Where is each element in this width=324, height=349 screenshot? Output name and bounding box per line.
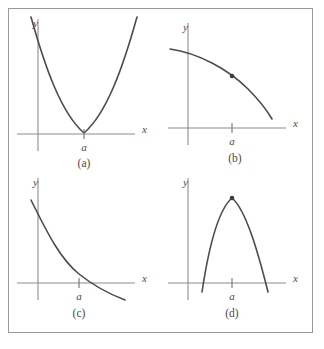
caption-c: (c) [73,307,86,320]
panel-b-plot: x y a (b) [160,9,312,171]
y-axis-label-d: y [182,176,188,188]
panel-a-plot: x y a (a) [9,9,161,171]
marked-point-d [230,196,235,201]
tick-label-c: a [76,290,82,302]
curve-c [31,200,125,300]
tick-label-a: a [81,141,87,153]
x-axis-label-b: x [292,117,298,129]
panel-c: x y a (c) [9,170,161,332]
curve-b [170,49,272,119]
y-axis-label-b: y [182,21,188,33]
caption-b: (b) [228,152,242,165]
x-axis-label-c: x [141,272,147,284]
tick-label-d: a [229,290,235,302]
panel-a: x y a (a) [9,9,161,171]
panel-d-plot: x y a (d) [160,170,312,332]
tick-label-b: a [229,135,235,147]
marked-point-b [230,74,235,79]
curve-d [202,198,268,292]
caption-d: (d) [225,307,239,320]
panel-b: x y a (b) [160,9,312,171]
panel-d: x y a (d) [160,170,312,332]
x-axis-label-a: x [141,123,147,135]
y-axis-label-c: y [32,176,38,188]
caption-a: (a) [78,157,91,170]
x-axis-label-d: x [292,272,298,284]
curve-a [31,17,137,133]
figure-container: x y a (a) x y a (b) [0,0,324,349]
figure-frame: x y a (a) x y a (b) [8,8,313,333]
panel-c-plot: x y a (c) [9,170,161,332]
